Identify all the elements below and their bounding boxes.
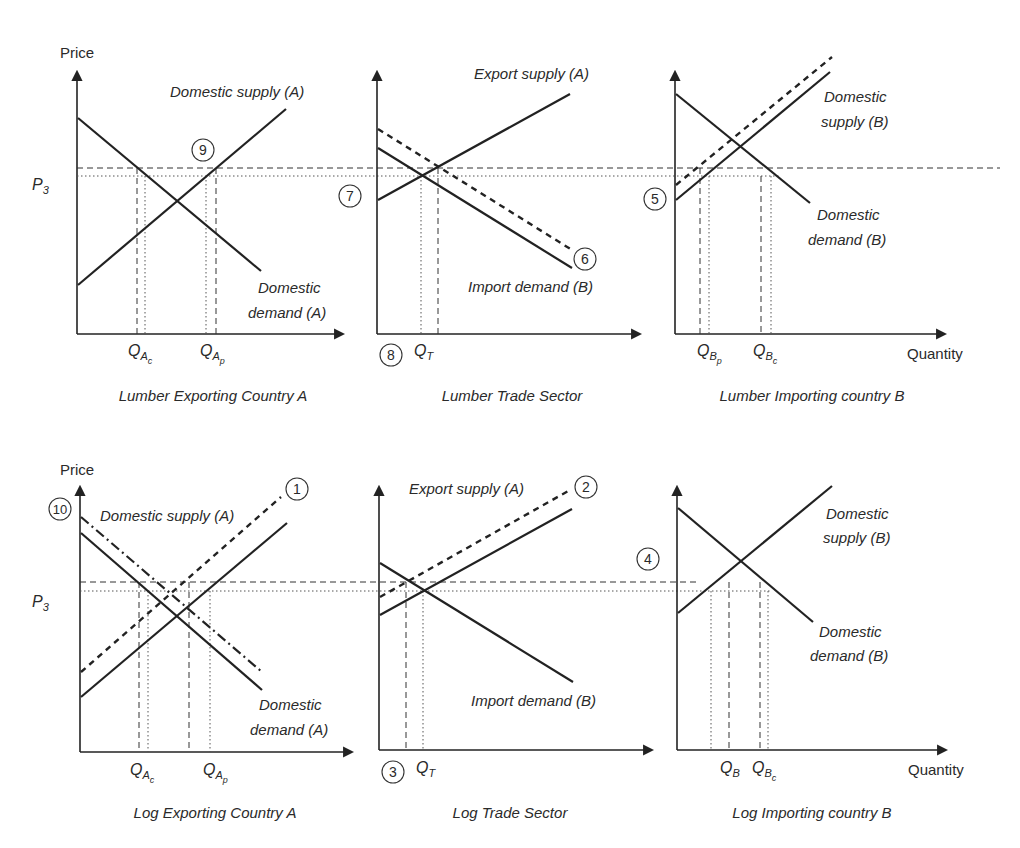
marker-2-text: 2	[582, 479, 590, 495]
trade-diagram: Price P3 Domestic supply (A) Domestic de…	[0, 0, 1020, 848]
quantity-axis-label: Quantity	[908, 761, 964, 778]
marker-8-text: 8	[387, 347, 395, 363]
import-demand-b-line	[378, 148, 572, 268]
domestic-demand-b-label: Domestic	[819, 623, 882, 640]
marker-6-text: 6	[581, 251, 589, 267]
price-axis-label: Price	[60, 461, 94, 478]
q-t-label: QT	[416, 759, 436, 779]
q-t-label: QT	[414, 342, 434, 362]
domestic-supply-a-line	[78, 109, 286, 285]
domestic-supply-b-line	[676, 72, 830, 200]
marker-1-text: 1	[293, 481, 301, 497]
price-axis-label: Price	[60, 44, 94, 61]
panel-title: Lumber Exporting Country A	[119, 387, 308, 404]
export-supply-a-line	[380, 509, 572, 615]
domestic-supply-b-line	[678, 486, 832, 613]
p3-label: P3	[32, 593, 50, 613]
domestic-demand-b-line	[676, 94, 810, 203]
domestic-supply-a-line	[81, 523, 287, 697]
domestic-demand-b-label: Domestic	[817, 206, 880, 223]
q-b-label: QB	[720, 759, 740, 779]
marker-9-text: 9	[199, 142, 207, 158]
domestic-supply-b-label: Domestic	[826, 505, 889, 522]
log-importing-panel: Domestic supply (B) Domestic demand (B) …	[637, 486, 964, 821]
panel-title: Lumber Importing country B	[719, 387, 904, 404]
marker-4-text: 4	[644, 551, 652, 567]
domestic-supply-a-label: Domestic supply (A)	[100, 507, 234, 524]
marker-5-text: 5	[651, 191, 659, 207]
domestic-demand-a-line	[78, 118, 261, 271]
domestic-demand-b-label-2: demand (B)	[810, 647, 888, 664]
domestic-supply-b-label: Domestic	[824, 88, 887, 105]
log-trade-panel: Export supply (A) Import demand (B) 2 3 …	[379, 476, 652, 821]
domestic-demand-a-line	[81, 533, 262, 690]
lumber-importing-panel: Domestic supply (B) Domestic demand (B) …	[644, 57, 963, 404]
marker-3-text: 3	[389, 764, 397, 780]
domestic-demand-a-label-2: demand (A)	[250, 721, 328, 738]
q-bc-label: QBc	[752, 759, 777, 783]
domestic-supply-a-label: Domestic supply (A)	[170, 83, 304, 100]
export-supply-a-label: Export supply (A)	[474, 65, 589, 82]
export-supply-a-label: Export supply (A)	[409, 480, 524, 497]
domestic-supply-b-shifted-line	[676, 57, 832, 185]
panel-title: Log Importing country B	[732, 804, 891, 821]
p3-label: P3	[32, 176, 50, 196]
panel-title: Lumber Trade Sector	[442, 387, 584, 404]
domestic-demand-b-line	[678, 508, 813, 622]
q-ap-label: QAp	[200, 342, 225, 366]
q-ac-label: QAc	[130, 761, 155, 785]
domestic-demand-a-label-2: demand (A)	[248, 304, 326, 321]
panel-title: Log Trade Sector	[453, 804, 569, 821]
marker-10-text: 10	[53, 502, 67, 517]
q-ac-label: QAc	[128, 342, 153, 366]
marker-7-text: 7	[346, 188, 354, 204]
q-bp-label: QBp	[697, 342, 722, 366]
panel-title: Log Exporting Country A	[134, 804, 297, 821]
domestic-supply-b-label-2: supply (B)	[821, 113, 889, 130]
q-ap-label: QAp	[203, 761, 228, 785]
domestic-demand-a-label: Domestic	[258, 279, 321, 296]
import-demand-b-label: Import demand (B)	[471, 692, 596, 709]
import-demand-b-label: Import demand (B)	[468, 278, 593, 295]
q-bc-label: QBc	[753, 342, 778, 366]
domestic-supply-b-label-2: supply (B)	[823, 529, 891, 546]
domestic-demand-a-label: Domestic	[259, 696, 322, 713]
domestic-demand-b-label-2: demand (B)	[808, 231, 886, 248]
lumber-trade-panel: Export supply (A) Import demand (B) 7 6 …	[339, 65, 640, 404]
quantity-axis-label: Quantity	[907, 345, 963, 362]
import-demand-b-line	[380, 563, 573, 682]
